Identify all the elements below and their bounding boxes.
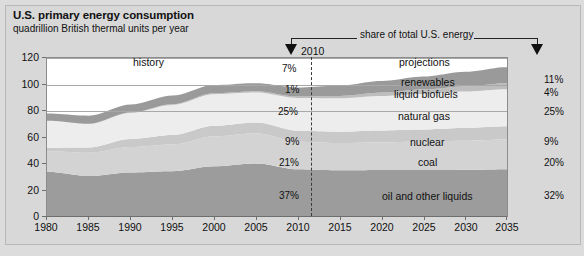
x-tick-2015	[340, 216, 341, 220]
page-title: U.S. primary energy consumption	[13, 9, 194, 21]
share-2010-liquid-biofuels: 1%	[285, 84, 299, 95]
vertical-dashed-line-icon	[311, 57, 312, 216]
x-tick-2005	[256, 216, 257, 220]
share-of-total-label: share of total U.S. energy	[360, 29, 473, 40]
x-tick-label-2005: 2005	[236, 221, 276, 233]
x-tick-label-2000: 2000	[194, 221, 234, 233]
x-tick-1980	[46, 216, 47, 220]
x-tick-label-2020: 2020	[362, 221, 402, 233]
y-tick-40	[42, 163, 46, 164]
x-tick-label-1990: 1990	[110, 221, 150, 233]
x-tick-2030	[465, 216, 466, 220]
x-tick-1985	[88, 216, 89, 220]
x-tick-label-2010: 2010	[278, 221, 318, 233]
share-2035-coal: 20%	[544, 157, 564, 168]
x-tick-2025	[424, 216, 425, 220]
x-tick-label-2030: 2030	[446, 221, 486, 233]
share-2010-renewables: 7%	[282, 63, 296, 74]
y-tick-label-100: 100	[5, 79, 39, 89]
share-2010-nuclear: 9%	[285, 136, 299, 147]
y-tick-label-20: 20	[5, 185, 39, 195]
share-2010-coal: 21%	[279, 157, 299, 168]
y-tick-label-80: 80	[5, 105, 39, 115]
band-label-oil-and-other-liquids: oil and other liquids	[382, 190, 472, 202]
x-axis-line	[46, 216, 507, 217]
share-2035-natural-gas: 25%	[544, 106, 564, 117]
band-label-renewables: renewables	[401, 76, 455, 88]
x-tick-label-2025: 2025	[404, 221, 444, 233]
x-tick-label-2035: 2035	[487, 221, 527, 233]
band-label-liquid-biofuels: liquid biofuels	[394, 88, 458, 100]
band-label-coal: coal	[418, 156, 437, 168]
annotation-line-right	[474, 38, 538, 39]
x-tick-label-1985: 1985	[68, 221, 108, 233]
projections-label: projections	[399, 56, 450, 68]
y-tick-label-40: 40	[5, 158, 39, 168]
share-2010-natural-gas: 25%	[278, 106, 298, 117]
annotation-line-left	[291, 38, 357, 39]
x-tick-label-2015: 2015	[320, 221, 360, 233]
y-tick-120	[42, 57, 46, 58]
x-tick-2035	[506, 216, 507, 220]
share-2035-nuclear: 9%	[544, 136, 558, 147]
share-2035-liquid-biofuels: 4%	[544, 87, 558, 98]
down-arrow-icon	[531, 44, 544, 56]
x-tick-2020	[382, 216, 383, 220]
y-tick-20	[42, 190, 46, 191]
y-tick-label-120: 120	[5, 52, 39, 62]
page-subtitle: quadrillion British thermal units per ye…	[13, 23, 189, 34]
band-label-nuclear: nuclear	[410, 136, 444, 148]
year-marker-2010: 2010	[301, 45, 324, 57]
y-tick-60	[42, 137, 46, 138]
x-tick-label-1995: 1995	[152, 221, 192, 233]
band-label-natural-gas: natural gas	[398, 110, 450, 122]
share-2010-oil-and-other-liquids: 37%	[279, 190, 299, 201]
y-tick-80	[42, 110, 46, 111]
share-2035-oil-and-other-liquids: 32%	[544, 190, 564, 201]
x-tick-2010	[298, 216, 299, 220]
history-label: history	[133, 56, 164, 68]
down-arrow-icon	[285, 44, 298, 56]
x-tick-2000	[214, 216, 215, 220]
y-tick-label-0: 0	[5, 211, 39, 221]
share-2035-renewables: 11%	[544, 74, 563, 85]
y-tick-100	[42, 84, 46, 85]
x-tick-1995	[172, 216, 173, 220]
y-tick-label-60: 60	[5, 132, 39, 142]
x-tick-1990	[130, 216, 131, 220]
x-tick-label-1980: 1980	[26, 221, 66, 233]
chart-screenshot: U.S. primary energy consumption quadrill…	[0, 0, 584, 256]
